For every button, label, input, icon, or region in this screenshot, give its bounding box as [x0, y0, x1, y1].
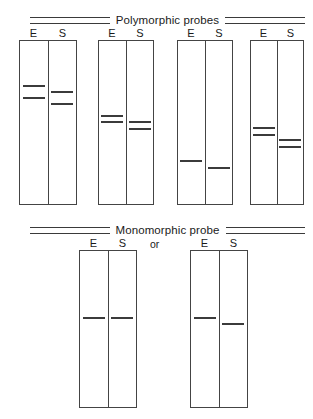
band — [279, 139, 301, 141]
lane-label-s: S — [126, 26, 154, 40]
header-rule-right — [225, 17, 305, 24]
gel-box — [177, 40, 233, 205]
gel-box — [190, 250, 248, 408]
lane-label-e: E — [79, 236, 108, 250]
or-separator-label: or — [150, 238, 159, 250]
lane-s — [109, 251, 137, 407]
gel-panel-2: E S — [98, 26, 154, 205]
band — [51, 91, 73, 93]
band — [23, 97, 45, 99]
lane-label-e: E — [250, 26, 277, 40]
gel-panel-5: E S — [79, 236, 137, 408]
lane-e — [251, 41, 278, 204]
band — [253, 134, 275, 136]
band — [194, 317, 216, 319]
band — [129, 128, 151, 130]
lane-e — [178, 41, 206, 204]
band — [111, 317, 133, 319]
section-header-monomorphic: Monomorphic probe — [0, 222, 313, 238]
lane-s — [49, 41, 77, 204]
gel-box — [250, 40, 304, 205]
lane-s — [206, 41, 233, 204]
band — [279, 146, 301, 148]
section-title-monomorphic: Monomorphic probe — [116, 224, 220, 236]
band — [222, 323, 244, 325]
lane-labels: E S — [19, 26, 77, 40]
lane-labels: E S — [250, 26, 304, 40]
band — [129, 121, 151, 123]
lane-e — [80, 251, 109, 407]
band — [101, 121, 123, 123]
band — [208, 167, 230, 169]
band — [23, 85, 45, 87]
lane-label-s: S — [205, 26, 233, 40]
gel-electrophoresis-figure: Polymorphic probes E S E S — [0, 0, 313, 419]
band — [253, 127, 275, 129]
gel-box — [98, 40, 154, 205]
lane-e — [191, 251, 220, 407]
band — [83, 317, 105, 319]
lane-e — [99, 41, 127, 204]
lane-labels: E S — [190, 236, 248, 250]
gel-panel-1: E S — [19, 26, 77, 205]
lane-label-e: E — [177, 26, 205, 40]
gel-panel-6: E S — [190, 236, 248, 408]
lane-s — [127, 41, 154, 204]
lane-s — [220, 251, 248, 407]
lane-e — [20, 41, 49, 204]
header-rule-left — [30, 227, 110, 234]
gel-panel-4: E S — [250, 26, 304, 205]
lane-s — [278, 41, 304, 204]
band — [101, 115, 123, 117]
lane-labels: E S — [79, 236, 137, 250]
gel-panel-3: E S — [177, 26, 233, 205]
lane-label-s: S — [108, 236, 137, 250]
lane-label-s: S — [277, 26, 304, 40]
lane-label-e: E — [19, 26, 48, 40]
lane-label-s: S — [48, 26, 77, 40]
gel-box — [19, 40, 77, 205]
lane-labels: E S — [98, 26, 154, 40]
lane-label-s: S — [219, 236, 248, 250]
lane-label-e: E — [98, 26, 126, 40]
band — [51, 103, 73, 105]
band — [180, 160, 202, 162]
section-title-polymorphic: Polymorphic probes — [116, 14, 219, 26]
lane-labels: E S — [177, 26, 233, 40]
lane-label-e: E — [190, 236, 219, 250]
gel-box — [79, 250, 137, 408]
header-rule-left — [30, 17, 110, 24]
header-rule-right — [226, 227, 306, 234]
